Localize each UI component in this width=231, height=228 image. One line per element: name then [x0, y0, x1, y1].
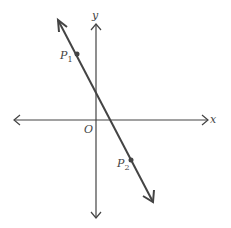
x-axis-label: x — [210, 114, 216, 125]
line-p1-p2 — [58, 20, 153, 202]
point-p2-label: P2 — [117, 158, 130, 172]
origin-label: O — [84, 124, 93, 135]
p1-subscript: 1 — [67, 55, 72, 64]
y-axis-label: y — [92, 10, 98, 21]
point-p1 — [75, 52, 80, 57]
coordinate-plane — [0, 0, 231, 228]
p2-subscript: 2 — [124, 163, 129, 172]
point-p1-label: P1 — [60, 50, 73, 64]
